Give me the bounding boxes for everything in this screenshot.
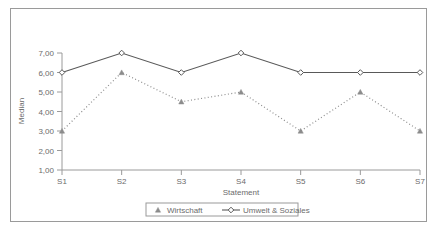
x-tick-label: S1 <box>57 177 67 186</box>
y-tick-label: 4,00 <box>38 108 54 117</box>
data-point-marker <box>119 50 125 56</box>
y-tick-label: 7,00 <box>38 49 54 58</box>
data-point-marker <box>358 89 363 94</box>
x-axis-ticks <box>62 170 420 175</box>
x-tick-label: S5 <box>296 177 306 186</box>
y-axis-title: Median <box>17 98 26 124</box>
y-tick-label: 3,00 <box>38 127 54 136</box>
y-tick-label: 6,00 <box>38 69 54 78</box>
x-tick-label: S3 <box>176 177 186 186</box>
data-point-marker <box>298 70 304 76</box>
x-axis-title: Statement <box>223 188 260 197</box>
legend-label-2: Umwelt & Soziales <box>243 206 310 215</box>
chart-series-layer <box>59 50 423 133</box>
data-point-marker <box>238 50 244 56</box>
data-point-marker <box>59 70 65 76</box>
y-tick-label: 1,00 <box>38 166 54 175</box>
x-tick-label: S2 <box>117 177 127 186</box>
series-1 <box>59 70 422 133</box>
series-line <box>62 73 420 132</box>
data-point-marker <box>358 70 364 76</box>
y-tick-label: 5,00 <box>38 88 54 97</box>
chart-svg: 1,002,003,004,005,006,007,00 S1S2S3S4S5S… <box>0 0 438 232</box>
x-tick-label: S6 <box>355 177 365 186</box>
data-point-marker <box>119 70 124 75</box>
x-axis-tick-labels: S1S2S3S4S5S6S7 <box>57 177 425 186</box>
data-point-marker <box>179 70 185 76</box>
y-tick-label: 2,00 <box>38 147 54 156</box>
x-tick-label: S7 <box>415 177 425 186</box>
data-point-marker <box>179 99 184 104</box>
data-point-marker <box>238 89 243 94</box>
series-2 <box>59 50 423 75</box>
y-axis-tick-labels: 1,002,003,004,005,006,007,00 <box>38 49 54 175</box>
chart-figure: 1,002,003,004,005,006,007,00 S1S2S3S4S5S… <box>0 0 438 232</box>
x-tick-label: S4 <box>236 177 246 186</box>
data-point-marker <box>417 70 423 76</box>
legend-label-1: Wirtschaft <box>167 206 203 215</box>
